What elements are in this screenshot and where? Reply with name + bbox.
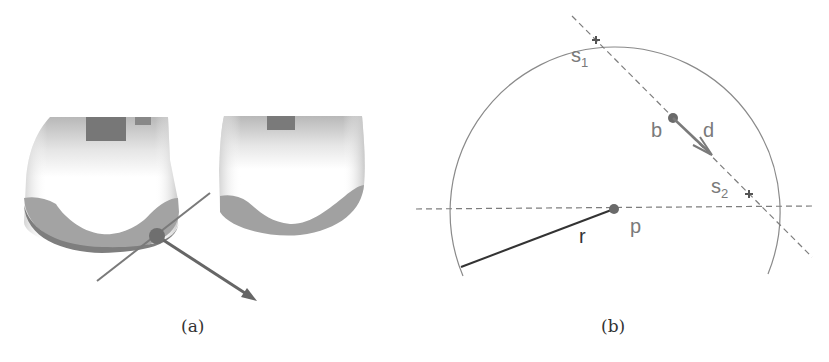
panel-b-diagram (0, 0, 829, 362)
figure: s1 b d s2 p r (a) (b) (0, 0, 829, 362)
label-r: r (579, 226, 586, 246)
label-s2: s2 (711, 176, 728, 200)
label-p: p (630, 216, 641, 236)
caption-b: (b) (601, 316, 625, 336)
label-b: b (651, 120, 662, 140)
label-d: d (703, 120, 714, 140)
center-point-p (609, 204, 619, 214)
intersection-s1-marker (592, 36, 600, 44)
label-s1: s1 (571, 45, 588, 69)
caption-a: (a) (181, 316, 204, 336)
radius-line (461, 209, 614, 267)
sphere-arc (450, 47, 780, 276)
